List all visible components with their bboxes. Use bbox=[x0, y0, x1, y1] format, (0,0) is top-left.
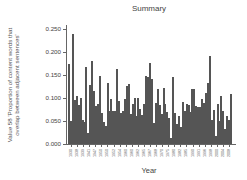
x-tick-label: 1938 bbox=[75, 149, 79, 163]
x-tick bbox=[126, 145, 127, 147]
x-tick-label: 1967 bbox=[148, 149, 152, 163]
x-tick-label: 1991 bbox=[197, 149, 201, 163]
y-tick-label: 0.050 bbox=[24, 117, 61, 124]
x-tick-label: 1952 bbox=[112, 149, 116, 163]
x-tick-label: 1930 bbox=[69, 149, 73, 163]
x-tick-label: 1939 bbox=[81, 149, 85, 163]
x-tick bbox=[107, 145, 108, 147]
x-tick-label: 2000 bbox=[215, 149, 219, 163]
x-tick bbox=[205, 145, 206, 147]
x-tick bbox=[150, 145, 151, 147]
bar-chart: Summary Value 58 'Proportion of content … bbox=[0, 0, 247, 180]
x-tick-label: 1962 bbox=[136, 149, 140, 163]
x-tick bbox=[132, 145, 133, 147]
y-tick bbox=[63, 29, 66, 30]
x-tick bbox=[95, 145, 96, 147]
x-tick bbox=[174, 145, 175, 147]
x-tick-label: 1965 bbox=[142, 149, 146, 163]
x-tick bbox=[144, 145, 145, 147]
x-tick-label: 1970 bbox=[160, 149, 164, 163]
x-tick-label: 1960 bbox=[124, 149, 128, 163]
x-tick-label: 1982 bbox=[178, 149, 182, 163]
x-tick-label: 1968 bbox=[154, 149, 158, 163]
x-tick-label: 1950 bbox=[99, 149, 103, 163]
x-axis-label: Year bbox=[66, 166, 232, 175]
x-tick bbox=[114, 145, 115, 147]
y-tick bbox=[63, 144, 66, 145]
x-tick-label: 2004 bbox=[221, 149, 225, 163]
x-tick bbox=[101, 145, 102, 147]
x-tick bbox=[156, 145, 157, 147]
x-tick bbox=[180, 145, 181, 147]
y-axis-label: Value 58 'Proportion of content words th… bbox=[6, 20, 20, 150]
y-tick-label: 0.250 bbox=[24, 25, 61, 32]
x-tick bbox=[120, 145, 121, 147]
x-tick-label: 1954 bbox=[118, 149, 122, 163]
x-tick bbox=[83, 145, 84, 147]
bar bbox=[230, 94, 232, 144]
x-tick-label: 1998 bbox=[209, 149, 213, 163]
x-tick bbox=[199, 145, 200, 147]
x-tick-label: 1960 bbox=[130, 149, 134, 163]
x-tick-label: 2008 bbox=[227, 149, 231, 163]
x-tick bbox=[168, 145, 169, 147]
x-tick bbox=[89, 145, 90, 147]
x-tick-label: 1996 bbox=[203, 149, 207, 163]
y-axis bbox=[66, 25, 67, 145]
y-tick-label: 0.150 bbox=[24, 71, 61, 78]
x-tick-label: 1985 bbox=[184, 149, 188, 163]
x-tick-label: 1950 bbox=[105, 149, 109, 163]
x-tick bbox=[162, 145, 163, 147]
x-tick bbox=[229, 145, 230, 147]
x-tick-label: 1975 bbox=[166, 149, 170, 163]
x-tick bbox=[211, 145, 212, 147]
x-tick bbox=[223, 145, 224, 147]
y-tick bbox=[63, 121, 66, 122]
x-tick bbox=[186, 145, 187, 147]
chart-title: Summary bbox=[66, 4, 232, 13]
x-tick bbox=[193, 145, 194, 147]
x-tick-label: 1990 bbox=[191, 149, 195, 163]
x-tick bbox=[71, 145, 72, 147]
x-tick-label: 1941 bbox=[87, 149, 91, 163]
y-tick-label: 0.100 bbox=[24, 94, 61, 101]
x-tick-label: 1980 bbox=[172, 149, 176, 163]
x-tick bbox=[138, 145, 139, 147]
y-tick bbox=[63, 52, 66, 53]
x-tick bbox=[77, 145, 78, 147]
y-tick bbox=[63, 75, 66, 76]
x-tick-label: 1947 bbox=[93, 149, 97, 163]
y-tick-label: 0.000 bbox=[24, 140, 61, 147]
x-tick bbox=[217, 145, 218, 147]
y-tick-label: 0.200 bbox=[24, 48, 61, 55]
y-tick bbox=[63, 98, 66, 99]
